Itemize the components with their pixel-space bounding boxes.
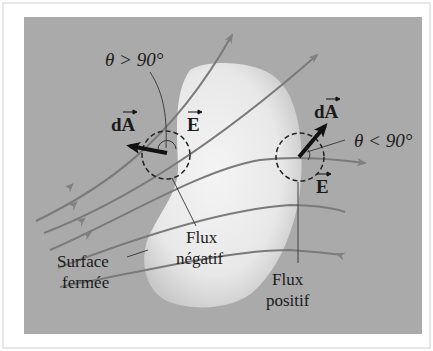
flux-negative-line1: Flux [186, 228, 218, 247]
flux-positive-line2: positif [266, 291, 310, 310]
E-right-label: E [316, 176, 329, 197]
flux-negative-line2: négatif [176, 249, 224, 268]
dA-right-label: dA [314, 101, 339, 122]
surface-label-line2: fermée [62, 273, 109, 292]
E-left-label: E [187, 114, 200, 135]
dA-left-label: dA [111, 114, 136, 135]
theta-greater-label: θ > 90° [105, 49, 164, 70]
flux-positive-line1: Flux [272, 270, 304, 289]
closed-surface-flux-diagram: θ > 90° dA E dA θ < 90° E Flux négatif F… [0, 0, 433, 351]
theta-less-label: θ < 90° [354, 130, 413, 151]
surface-label-line1: Surface [57, 252, 109, 271]
